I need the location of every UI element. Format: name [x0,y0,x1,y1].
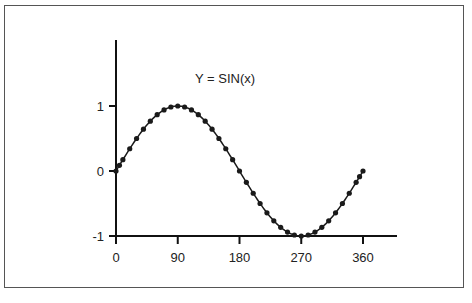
data-point [244,180,249,185]
y-tick-label: 0 [97,164,104,179]
data-markers [113,103,365,238]
data-point [113,168,118,173]
data-point [134,136,139,141]
data-point [196,112,201,117]
x-tick-label: 90 [171,250,185,265]
data-point [340,201,345,206]
data-point [319,225,324,230]
data-point [251,191,256,196]
data-point [209,127,214,132]
x-tick-label: 180 [229,250,251,265]
y-tick-label: -1 [92,229,104,244]
data-point [357,174,362,179]
data-point [360,168,365,173]
data-point [168,104,173,109]
data-point [127,146,132,151]
data-point [326,218,331,223]
data-point [120,157,125,162]
data-point [117,163,122,168]
y-tick-label: 1 [97,99,104,114]
chart-title: Y = SIN(x) [195,71,255,86]
data-point [333,210,338,215]
data-point [141,127,146,132]
x-tick-label: 360 [352,250,374,265]
data-point [223,146,228,151]
data-point [230,157,235,162]
data-point [278,225,283,230]
data-point [264,210,269,215]
data-point [203,119,208,124]
x-tick-label: 270 [290,250,312,265]
data-point [161,107,166,112]
y-ticks: -101 [92,99,116,244]
data-point [292,232,297,237]
data-point [189,107,194,112]
data-point [271,218,276,223]
data-point [285,230,290,235]
data-point [306,232,311,237]
x-ticks: 090180270360 [112,236,373,265]
data-point [354,180,359,185]
data-point [155,112,160,117]
data-point [312,230,317,235]
data-point [182,104,187,109]
data-point [148,119,153,124]
data-point [216,136,221,141]
data-point [347,191,352,196]
data-point [175,103,180,108]
sine-chart: -101 090180270360 Y = SIN(x) [0,0,472,303]
x-tick-label: 0 [112,250,119,265]
data-point [257,201,262,206]
data-point [237,168,242,173]
data-point [299,233,304,238]
